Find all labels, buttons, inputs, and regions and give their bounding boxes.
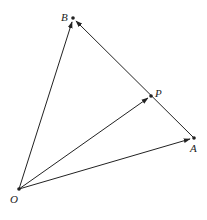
point-o (17, 187, 21, 191)
point-b (71, 16, 75, 20)
point-p (149, 94, 153, 98)
vector-ob (19, 22, 72, 189)
vector-diagram: B P A O (0, 0, 207, 220)
label-o: O (10, 193, 18, 205)
vector-ab (76, 21, 194, 138)
label-a: A (189, 142, 197, 154)
vector-oa (19, 139, 190, 189)
point-a (192, 136, 196, 140)
vector-op (19, 98, 148, 189)
label-p: P (154, 87, 162, 99)
label-b: B (61, 11, 68, 23)
